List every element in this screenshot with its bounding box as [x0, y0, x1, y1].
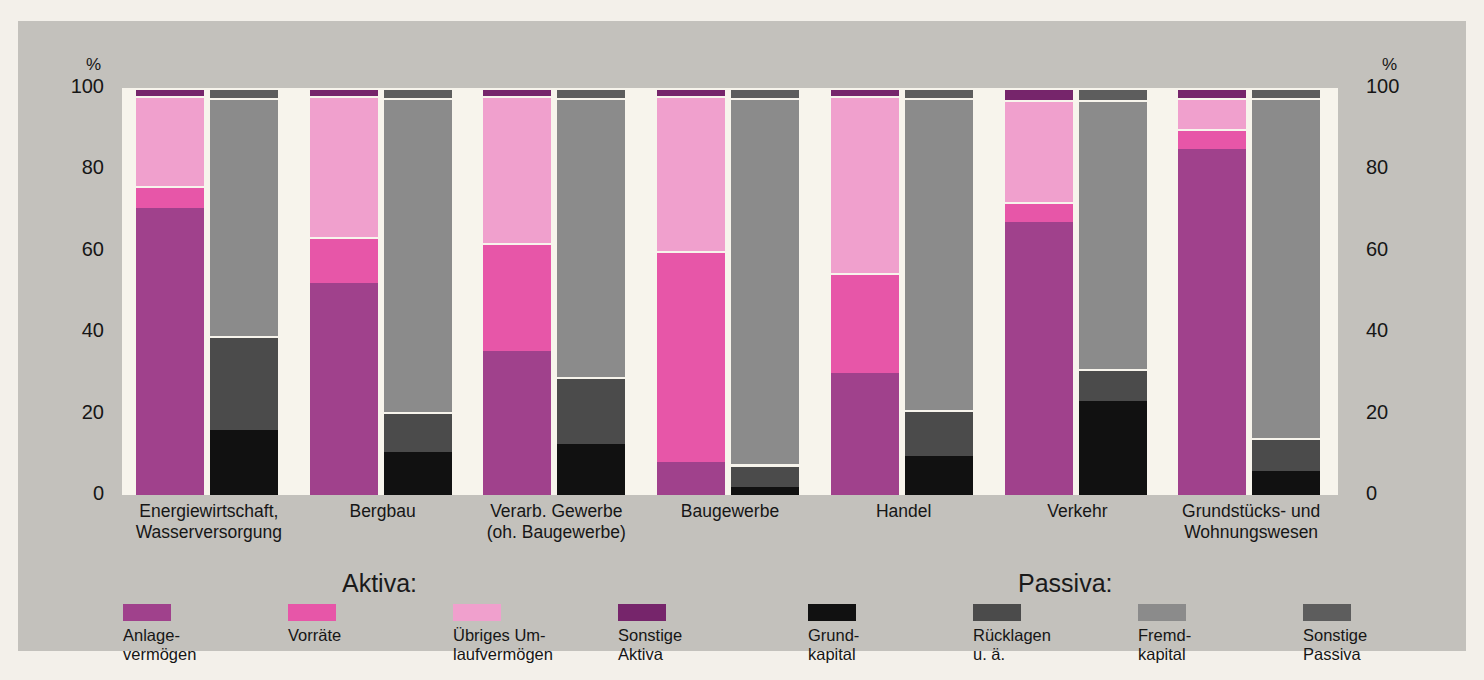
bar-segment[interactable] — [557, 377, 625, 444]
stacked-bar-aktiva[interactable] — [831, 88, 899, 495]
bar-segment[interactable] — [483, 96, 551, 243]
bar-segment[interactable] — [384, 88, 452, 98]
bar-group — [1164, 88, 1338, 495]
stacked-bar-aktiva[interactable] — [310, 88, 378, 495]
bar-segment[interactable] — [831, 273, 899, 373]
bar-segment[interactable] — [384, 412, 452, 453]
aktiva-legend-item[interactable]: Sonstige Aktiva — [618, 604, 682, 664]
bar-segment[interactable] — [1079, 401, 1147, 495]
x-axis-label: Grundstücks- und Wohnungswesen — [1121, 501, 1381, 543]
bar-group — [122, 88, 296, 495]
bar-segment[interactable] — [657, 88, 725, 96]
legend-color-swatch — [453, 604, 501, 621]
legend-label: Übriges Um- laufvermögen — [453, 626, 553, 664]
y-tick-label-left-80: 80 — [32, 156, 104, 179]
bar-segment[interactable] — [905, 98, 973, 409]
bar-segment[interactable] — [210, 430, 278, 495]
bar-segment[interactable] — [657, 96, 725, 251]
legend-label: Fremd- kapital — [1138, 626, 1191, 664]
legend-title-aktiva: Aktiva: — [342, 569, 417, 598]
bar-segment[interactable] — [1079, 369, 1147, 402]
bar-segment[interactable] — [657, 251, 725, 463]
aktiva-legend-item[interactable]: Übriges Um- laufvermögen — [453, 604, 553, 664]
y-tick-label-right-60: 60 — [1366, 238, 1438, 261]
y-tick-label-left-100: 100 — [32, 75, 104, 98]
legend-color-swatch — [1303, 604, 1351, 621]
bar-segment[interactable] — [1178, 129, 1246, 149]
bar-segment[interactable] — [657, 462, 725, 495]
bar-segment[interactable] — [136, 208, 204, 495]
passiva-legend-item[interactable]: Fremd- kapital — [1138, 604, 1191, 664]
bar-segment[interactable] — [310, 237, 378, 284]
stacked-bar-passiva[interactable] — [384, 88, 452, 495]
aktiva-legend-item[interactable]: Vorräte — [288, 604, 341, 645]
y-tick-label-right-20: 20 — [1366, 401, 1438, 424]
bar-segment[interactable] — [384, 452, 452, 495]
bar-segment[interactable] — [557, 98, 625, 377]
bar-segment[interactable] — [483, 351, 551, 495]
legend-title-passiva: Passiva: — [1018, 569, 1112, 598]
bar-segment[interactable] — [731, 487, 799, 495]
passiva-legend-item[interactable]: Sonstige Passiva — [1303, 604, 1367, 664]
stacked-bar-aktiva[interactable] — [1178, 88, 1246, 495]
bar-segment[interactable] — [1252, 98, 1320, 438]
bar-segment[interactable] — [1005, 100, 1073, 202]
bar-segment[interactable] — [1005, 222, 1073, 495]
stacked-bar-passiva[interactable] — [210, 88, 278, 495]
passiva-legend-item[interactable]: Rücklagen u. ä. — [973, 604, 1051, 664]
stacked-bar-passiva[interactable] — [905, 88, 973, 495]
legend-color-swatch — [123, 604, 171, 621]
bar-segment[interactable] — [905, 410, 973, 457]
stacked-bar-passiva[interactable] — [1079, 88, 1147, 495]
y-tick-label-left-40: 40 — [32, 319, 104, 342]
bar-segment[interactable] — [483, 243, 551, 351]
aktiva-legend-item[interactable]: Anlage- vermögen — [123, 604, 196, 664]
bar-segment[interactable] — [831, 96, 899, 273]
bar-segment[interactable] — [1252, 438, 1320, 471]
stacked-bar-passiva[interactable] — [1252, 88, 1320, 495]
bar-segment[interactable] — [831, 373, 899, 495]
chart-panel: %100806040200 %100806040200 Energiewirts… — [18, 21, 1466, 651]
bar-segment[interactable] — [310, 88, 378, 96]
stacked-bar-passiva[interactable] — [557, 88, 625, 495]
bar-segment[interactable] — [1005, 202, 1073, 222]
bar-segment[interactable] — [1079, 88, 1147, 100]
bar-segment[interactable] — [1178, 98, 1246, 129]
bar-segment[interactable] — [136, 88, 204, 96]
bar-segment[interactable] — [557, 444, 625, 495]
bar-segment[interactable] — [210, 336, 278, 430]
bar-segment[interactable] — [905, 456, 973, 495]
bar-segment[interactable] — [731, 98, 799, 464]
bar-segment[interactable] — [1252, 88, 1320, 98]
bar-group — [296, 88, 470, 495]
passiva-legend-item[interactable]: Grund- kapital — [808, 604, 859, 664]
stacked-bar-aktiva[interactable] — [136, 88, 204, 495]
bar-segment[interactable] — [557, 88, 625, 98]
bar-segment[interactable] — [210, 98, 278, 336]
bar-segment[interactable] — [1005, 88, 1073, 100]
bar-segment[interactable] — [1079, 100, 1147, 369]
legend-label: Grund- kapital — [808, 626, 859, 664]
stacked-bar-passiva[interactable] — [731, 88, 799, 495]
bar-segment[interactable] — [1252, 471, 1320, 495]
legend-color-swatch — [288, 604, 336, 621]
bar-segment[interactable] — [483, 88, 551, 96]
bar-segment[interactable] — [831, 88, 899, 96]
bar-segment[interactable] — [1178, 149, 1246, 495]
bar-group — [991, 88, 1165, 495]
legend-label: Sonstige Aktiva — [618, 626, 682, 664]
bar-segment[interactable] — [905, 88, 973, 98]
bar-segment[interactable] — [136, 96, 204, 186]
bar-segment[interactable] — [384, 98, 452, 411]
bar-segment[interactable] — [731, 465, 799, 487]
bar-segment[interactable] — [310, 96, 378, 236]
bar-segment[interactable] — [136, 186, 204, 208]
figure-root: %100806040200 %100806040200 Energiewirts… — [0, 0, 1484, 680]
stacked-bar-aktiva[interactable] — [483, 88, 551, 495]
stacked-bar-aktiva[interactable] — [1005, 88, 1073, 495]
bar-segment[interactable] — [731, 88, 799, 98]
bar-segment[interactable] — [1178, 88, 1246, 98]
bar-segment[interactable] — [310, 283, 378, 495]
bar-segment[interactable] — [210, 88, 278, 98]
stacked-bar-aktiva[interactable] — [657, 88, 725, 495]
